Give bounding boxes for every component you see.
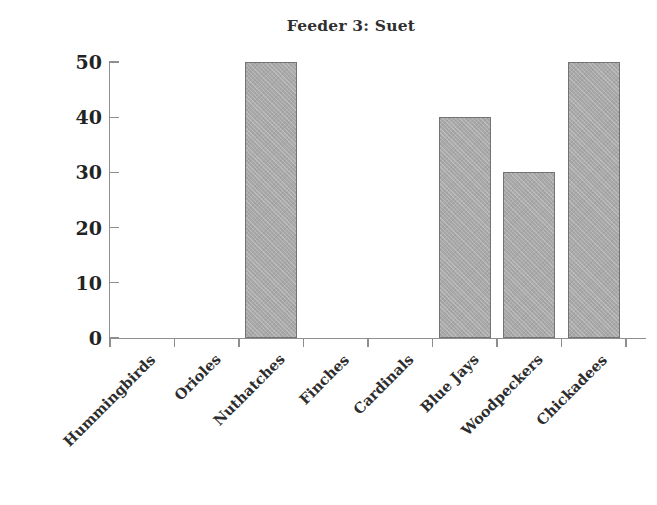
x-axis-label: Orioles	[172, 352, 224, 404]
x-tick	[432, 339, 433, 347]
x-tick	[303, 339, 304, 347]
x-axis-label: Blue Jays	[418, 352, 482, 416]
y-tick-label: 0	[50, 329, 102, 348]
bar	[568, 62, 620, 338]
y-tick-label: 20	[50, 219, 102, 238]
bar	[503, 172, 555, 338]
x-tick	[625, 339, 626, 347]
x-tick	[174, 339, 175, 347]
x-axis-line	[109, 338, 646, 339]
y-tick-label: 10	[50, 274, 102, 293]
bar	[439, 117, 491, 338]
x-tick	[561, 339, 562, 347]
x-axis-label: Cardinals	[351, 352, 416, 417]
x-tick	[496, 339, 497, 347]
x-tick	[109, 339, 110, 347]
plot-area	[110, 62, 645, 338]
x-axis-label: Finches	[297, 352, 352, 407]
y-tick-label: 50	[50, 53, 102, 72]
x-axis-label: Chickadees	[534, 352, 610, 428]
x-axis-label: Hummingbirds	[61, 352, 158, 449]
x-tick	[367, 339, 368, 347]
chart-title: Feeder 3: Suet	[0, 16, 657, 35]
y-tick-label: 40	[50, 108, 102, 127]
bar	[245, 62, 297, 338]
x-tick	[238, 339, 239, 347]
bar-chart: Feeder 3: Suet 01020304050 HummingbirdsO…	[0, 0, 657, 505]
y-tick-label: 30	[50, 163, 102, 182]
